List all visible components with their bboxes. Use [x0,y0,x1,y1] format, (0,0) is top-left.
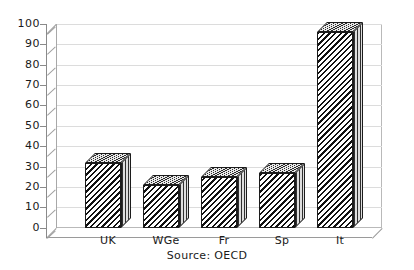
bar-side-face [237,167,247,228]
bar-front-face [259,173,295,228]
bar-uk [85,153,131,228]
bar-sp [259,163,305,228]
bar-front-face [317,32,353,228]
bar-it [317,22,363,228]
bar-side-face [353,22,363,228]
bars-group [0,0,414,270]
bar-fr [201,167,247,228]
bar-wge [143,175,189,228]
bar-chart: 100 90 80 70 60 50 40 30 20 [0,0,414,270]
bar-front-face [85,163,121,228]
x-tick-label-it: It [305,234,375,247]
bar-side-face [121,153,131,228]
bar-front-face [201,177,237,228]
source-note: Source: OECD [0,249,414,262]
bar-side-face [295,163,305,228]
bar-front-face [143,185,179,228]
bar-side-face [179,175,189,228]
